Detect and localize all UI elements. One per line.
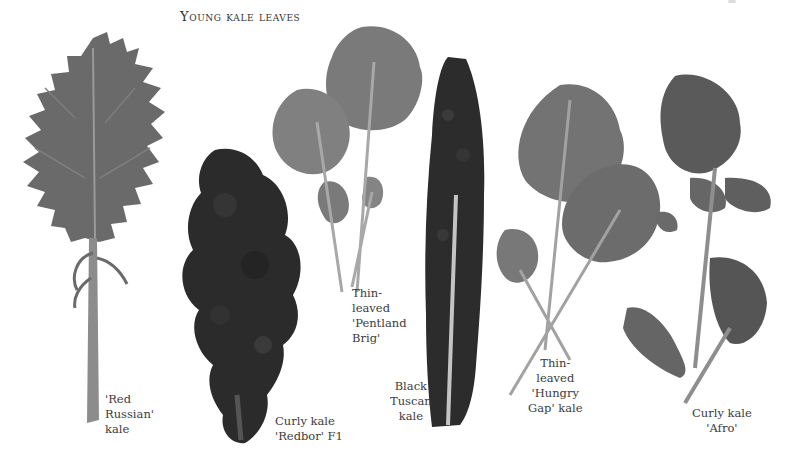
black-tuscan-kale-image [418,55,498,435]
afro-caption: Curly kale 'Afro' [692,406,752,436]
afro-kale-image [615,68,794,408]
page-corner-mark [728,0,736,3]
pentland-brig-kale-image [262,22,432,312]
redbor-caption: Curly kale 'Redbor' F1 [275,414,343,444]
red-russian-kale-image [15,28,175,438]
black-tuscan-caption: Black Tuscan kale [390,379,432,424]
red-russian-caption: 'Red Russian' kale [105,392,154,437]
pentland-brig-caption: Thin- leaved 'Pentland Brig' [352,286,407,346]
hungry-gap-caption: Thin- leaved 'Hungry Gap' kale [528,356,583,416]
